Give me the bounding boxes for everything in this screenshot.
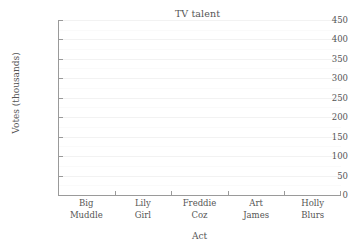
x-category-label-line1: Holly xyxy=(301,198,324,208)
plot-area xyxy=(58,20,341,195)
x-category-label-lily-girl: Lily Girl xyxy=(115,198,172,221)
x-category-label-line1: Art xyxy=(249,198,263,208)
x-axis-title: Act xyxy=(58,231,341,241)
y-tick-250 xyxy=(59,98,63,99)
data-series-layer xyxy=(58,20,341,195)
y-tick-label-250: 250 xyxy=(299,94,351,103)
y-tick-50 xyxy=(59,176,63,177)
x-category-label-line2: James xyxy=(228,210,285,222)
y-tick-400 xyxy=(59,39,63,40)
chart-title-text: TV talent xyxy=(175,8,220,19)
x-category-label-big-muddle: Big Muddle xyxy=(58,198,115,221)
x-tick-boundary-5 xyxy=(340,191,341,195)
y-tick-150 xyxy=(59,137,63,138)
x-category-label-line2: Coz xyxy=(171,210,228,222)
y-axis-line xyxy=(58,20,59,196)
y-tick-label-200: 200 xyxy=(299,113,351,122)
x-category-label-line1: Big xyxy=(79,198,93,208)
y-tick-label-100: 100 xyxy=(299,152,351,161)
x-category-label-line2: Girl xyxy=(115,210,172,222)
x-tick-boundary-1 xyxy=(115,191,116,195)
x-tick-boundary-0 xyxy=(58,191,59,195)
y-tick-label-350: 350 xyxy=(299,55,351,64)
x-category-label-art-james: Art James xyxy=(228,198,285,221)
x-category-label-freddie-coz: Freddie Coz xyxy=(171,198,228,221)
x-category-label-holly-blurs: Holly Blurs xyxy=(284,198,341,221)
x-tick-boundary-3 xyxy=(228,191,229,195)
y-tick-0 xyxy=(59,195,63,196)
y-tick-450 xyxy=(59,20,63,21)
y-axis-title: Votes (thousands) xyxy=(11,28,21,158)
y-tick-label-300: 300 xyxy=(299,74,351,83)
x-tick-boundary-4 xyxy=(284,191,285,195)
x-category-label-line2: Muddle xyxy=(58,210,115,222)
y-tick-200 xyxy=(59,117,63,118)
y-tick-100 xyxy=(59,156,63,157)
y-tick-label-50: 50 xyxy=(299,172,351,181)
y-tick-label-400: 400 xyxy=(299,35,351,44)
x-category-label-line1: Lily xyxy=(135,198,151,208)
y-tick-label-450: 450 xyxy=(299,16,351,25)
chart-container: TV talent 450 400 350 300 xyxy=(0,0,351,252)
x-tick-boundary-2 xyxy=(171,191,172,195)
x-category-label-line2: Blurs xyxy=(284,210,341,222)
y-tick-label-150: 150 xyxy=(299,133,351,142)
y-tick-300 xyxy=(59,78,63,79)
x-category-label-line1: Freddie xyxy=(183,198,217,208)
y-tick-350 xyxy=(59,59,63,60)
